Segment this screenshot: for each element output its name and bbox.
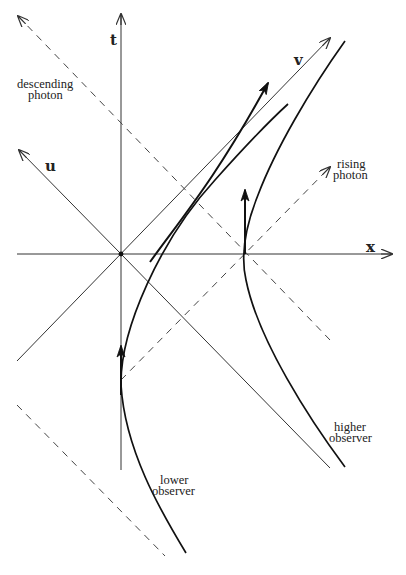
higher-observer-label-2: observer [329,431,373,445]
lower-observer-label-2: observer [152,484,196,498]
v-axis-label: v [293,51,304,69]
descending-photon-label-2: photon [28,88,63,102]
rising-photon-label-2: photon [333,168,368,182]
descending-photon [18,16,330,340]
u-axis [19,150,121,254]
lower-observer-arrow-upper [150,83,268,262]
lower-observer-worldline [121,104,288,553]
spacetime-diagram: t x u v descending photon rising photon … [0,0,406,575]
x-axis-label: x [366,238,376,256]
lower-photon-line [17,405,165,556]
t-axis-label: t [110,31,117,49]
u-axis-lower [121,254,330,468]
u-axis-label: u [45,157,56,175]
origin-point [119,252,124,257]
